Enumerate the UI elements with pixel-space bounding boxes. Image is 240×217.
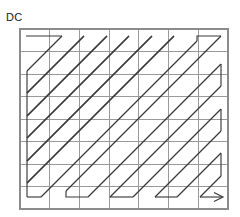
dc-figure: DC [0,0,240,217]
diagram-canvas [0,0,240,217]
figure-label: DC [6,11,23,24]
